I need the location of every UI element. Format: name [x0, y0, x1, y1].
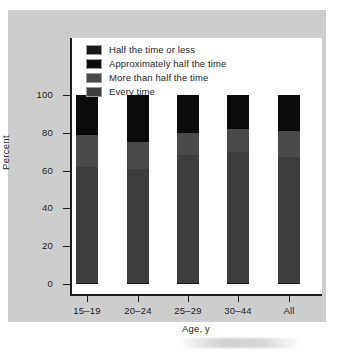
- bar-segment: [278, 95, 300, 131]
- chart-legend: Half the time or lessApproximately half …: [86, 43, 226, 99]
- figure-panel: Percent Age, y 100806040200 15–1920–2425…: [8, 10, 326, 322]
- x-tick: [188, 296, 189, 302]
- x-axis-line: [70, 294, 322, 296]
- bar-segment: [227, 152, 249, 284]
- y-tick: [63, 208, 70, 209]
- y-tick-label: 20: [8, 240, 53, 251]
- x-tick: [138, 296, 139, 302]
- bar-segment: [227, 129, 249, 152]
- figure: Percent Age, y 100806040200 15–1920–2425…: [0, 0, 342, 359]
- bar-20–24: [127, 95, 149, 284]
- legend-item: Every time: [86, 85, 226, 98]
- bar-25–29: [177, 95, 199, 284]
- y-axis-line: [70, 38, 72, 296]
- y-tick: [63, 246, 70, 247]
- legend-item: Approximately half the time: [86, 57, 226, 70]
- y-tick-label: 100: [8, 89, 53, 100]
- legend-swatch: [86, 73, 102, 83]
- y-tick-label: 0: [8, 278, 53, 289]
- legend-label: Half the time or less: [109, 44, 195, 55]
- y-tick: [63, 284, 70, 285]
- legend-item: Half the time or less: [86, 43, 226, 56]
- legend-label: More than half the time: [109, 72, 208, 83]
- bar-segment: [127, 142, 149, 168]
- scan-artifact: [180, 338, 300, 348]
- x-tick: [289, 296, 290, 302]
- bar-segment: [177, 155, 199, 284]
- bar-segment: [177, 133, 199, 156]
- x-tick-label: 20–24: [110, 305, 166, 316]
- bar-segment: [227, 95, 249, 129]
- y-tick-label: 60: [8, 165, 53, 176]
- bar-segment: [278, 131, 300, 157]
- y-tick: [63, 133, 70, 134]
- bar-segment: [76, 135, 98, 167]
- x-tick: [238, 296, 239, 302]
- y-tick: [63, 171, 70, 172]
- y-tick: [63, 95, 70, 96]
- bar-segment: [76, 95, 98, 135]
- legend-item: More than half the time: [86, 71, 226, 84]
- y-tick-label: 80: [8, 127, 53, 138]
- bar-segment: [76, 167, 98, 284]
- legend-label: Approximately half the time: [109, 58, 226, 69]
- bar-segment: [127, 95, 149, 142]
- legend-label: Every time: [109, 86, 155, 97]
- bar-segment: [127, 169, 149, 284]
- x-tick-label: 30–44: [210, 305, 266, 316]
- x-tick-label: All: [261, 305, 317, 316]
- legend-swatch: [86, 59, 102, 69]
- y-tick-label: 40: [8, 202, 53, 213]
- bar-segment: [278, 157, 300, 284]
- bar-segment: [177, 95, 199, 133]
- legend-swatch: [86, 87, 102, 97]
- x-tick: [87, 296, 88, 302]
- bar-All: [278, 95, 300, 284]
- bar-15–19: [76, 95, 98, 284]
- x-tick-label: 25–29: [160, 305, 216, 316]
- legend-swatch: [86, 45, 102, 55]
- x-axis-title: Age, y: [70, 323, 322, 334]
- bar-30–44: [227, 95, 249, 284]
- x-tick-label: 15–19: [59, 305, 115, 316]
